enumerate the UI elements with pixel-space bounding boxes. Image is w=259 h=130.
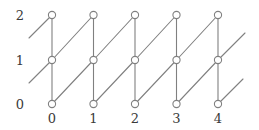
diagonal-edge xyxy=(177,15,219,60)
graph-node[interactable] xyxy=(173,100,180,107)
graph-node[interactable] xyxy=(131,56,138,63)
graph-node[interactable] xyxy=(48,11,55,18)
graph-node[interactable] xyxy=(131,11,138,18)
graph-node[interactable] xyxy=(131,100,138,107)
y-axis-tick-label: 2 xyxy=(16,9,24,22)
x-axis-tick-label: 2 xyxy=(131,112,139,125)
stub-edge xyxy=(29,15,52,38)
diagonal-edge xyxy=(135,60,177,104)
x-axis-tick-label: 0 xyxy=(48,112,56,125)
graph-node[interactable] xyxy=(90,56,97,63)
graph-node[interactable] xyxy=(48,100,55,107)
stub-edge xyxy=(218,33,245,60)
stub-edge xyxy=(29,60,52,83)
graph-node[interactable] xyxy=(214,56,221,63)
x-axis-tick-label: 3 xyxy=(172,112,180,125)
diagonal-edge xyxy=(94,60,136,104)
graph-node[interactable] xyxy=(90,11,97,18)
graph-node[interactable] xyxy=(90,100,97,107)
x-axis-tick-label: 4 xyxy=(214,112,222,125)
graph-node[interactable] xyxy=(173,56,180,63)
diagonal-edge xyxy=(177,60,219,104)
graph-node[interactable] xyxy=(214,11,221,18)
x-axis-tick-label: 1 xyxy=(89,112,97,125)
graph-node[interactable] xyxy=(48,56,55,63)
diagonal-edge xyxy=(52,15,94,60)
lattice-figure: 210 01234 xyxy=(0,0,259,130)
y-axis-tick-label: 0 xyxy=(16,98,24,111)
stub-edge xyxy=(218,79,243,104)
diagonal-edge xyxy=(94,15,136,60)
y-axis-tick-label: 1 xyxy=(16,54,24,67)
graph-node[interactable] xyxy=(173,11,180,18)
graph-node[interactable] xyxy=(214,100,221,107)
diagonal-edge xyxy=(52,60,94,104)
diagonal-edge xyxy=(135,15,177,60)
